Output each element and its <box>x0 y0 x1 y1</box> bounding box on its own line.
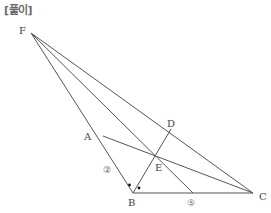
segment-FC <box>31 33 253 193</box>
angle-mark-dot-right <box>138 187 141 190</box>
segment-F-through-E <box>31 33 193 193</box>
label-AB-length: ② <box>103 165 111 175</box>
segment-AC <box>103 136 253 193</box>
segment-FB <box>31 33 133 193</box>
label-E: E <box>155 162 162 173</box>
geometry-diagram: F A B C D E ② ⑤ <box>0 0 271 213</box>
label-D: D <box>167 118 175 129</box>
label-A: A <box>83 131 92 142</box>
label-B: B <box>128 197 135 208</box>
label-F: F <box>19 25 26 36</box>
angle-mark-dot-left <box>128 184 131 187</box>
segment-BD <box>133 129 171 193</box>
label-C: C <box>259 191 267 202</box>
label-BC-length: ⑤ <box>187 198 195 208</box>
